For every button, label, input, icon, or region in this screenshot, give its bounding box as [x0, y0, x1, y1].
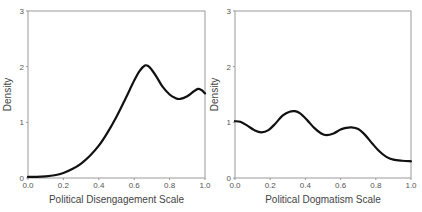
charts-canvas: 01230.00.20.40.60.81.0Political Disengag…: [0, 0, 422, 212]
density-curve: [235, 111, 411, 161]
density-curve: [28, 65, 205, 177]
plot-frame: [28, 11, 205, 178]
x-tick-label: 0.8: [164, 181, 176, 190]
y-tick-label: 1: [20, 118, 25, 127]
y-tick-label: 2: [20, 63, 25, 72]
y-tick-label: 3: [227, 7, 232, 16]
right-density-chart: 01230.00.20.40.60.81.0Political Dogmatis…: [209, 7, 417, 205]
x-tick-label: 1.0: [405, 181, 417, 190]
x-tick-label: 0.4: [300, 181, 312, 190]
x-axis-label: Political Disengagement Scale: [49, 194, 185, 205]
x-tick-label: 0.6: [129, 181, 141, 190]
y-tick-label: 2: [227, 63, 232, 72]
x-tick-label: 0.0: [22, 181, 34, 190]
x-tick-label: 0.4: [93, 181, 105, 190]
x-tick-label: 0.6: [335, 181, 347, 190]
x-tick-label: 0.8: [370, 181, 382, 190]
left-density-chart: 01230.00.20.40.60.81.0Political Disengag…: [2, 7, 211, 205]
x-tick-label: 0.2: [265, 181, 277, 190]
y-axis-label: Density: [2, 78, 13, 111]
x-tick-label: 0.2: [58, 181, 70, 190]
x-tick-label: 0.0: [229, 181, 241, 190]
y-tick-label: 1: [227, 118, 232, 127]
y-tick-label: 3: [20, 7, 25, 16]
plot-frame: [235, 11, 411, 178]
y-axis-label: Density: [209, 78, 220, 111]
x-tick-label: 1.0: [199, 181, 211, 190]
x-axis-label: Political Dogmatism Scale: [265, 194, 381, 205]
